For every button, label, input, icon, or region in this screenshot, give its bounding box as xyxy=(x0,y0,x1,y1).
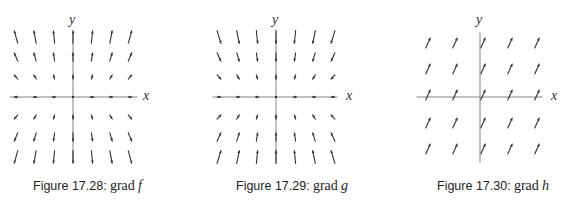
caption-function: grad xyxy=(514,178,539,193)
figure-17-30: y x Figure 17.30: grad h xyxy=(0,0,575,210)
caption-variable: h xyxy=(542,178,549,193)
caption-label: Figure 17.30: xyxy=(437,179,511,193)
y-axis-label: y xyxy=(476,12,482,28)
vector-field-grad-h xyxy=(0,0,575,170)
x-axis-label: x xyxy=(551,88,557,104)
figure-caption: Figure 17.30: grad h xyxy=(437,178,549,194)
